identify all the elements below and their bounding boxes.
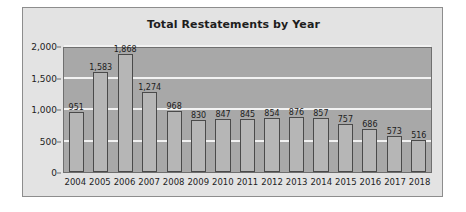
x-axis-tick-label: 2013 (284, 175, 309, 187)
y-axis-tick-label: 2,000 (31, 42, 57, 52)
y-axis-tick-label: 1,000 (31, 105, 57, 115)
bar[interactable]: 830 (191, 120, 206, 172)
bar-slot: 573 (382, 48, 406, 172)
y-axis-tick-mark (57, 78, 61, 79)
x-axis-tick-label: 2005 (88, 175, 113, 187)
y-axis-tick-mark (57, 141, 61, 142)
bar-value-label: 951 (69, 103, 84, 112)
plot-area: 9511,5831,8681,2749688308478458548768577… (63, 47, 432, 173)
bar-slot: 1,868 (113, 48, 137, 172)
bar-value-label: 1,583 (89, 63, 112, 72)
bar-value-label: 876 (289, 108, 304, 117)
x-axis-tick-label: 2016 (358, 175, 383, 187)
bar-value-label: 854 (264, 109, 279, 118)
x-axis-tick-label: 2006 (112, 175, 137, 187)
x-axis-tick-label: 2008 (161, 175, 186, 187)
bar[interactable]: 1,274 (142, 92, 157, 172)
bar-value-label: 1,274 (138, 83, 161, 92)
bar-value-label: 968 (166, 102, 181, 111)
x-axis-tick-label: 2015 (334, 175, 359, 187)
bar-value-label: 847 (215, 110, 230, 119)
x-axis-tick-label: 2007 (137, 175, 162, 187)
bar-series: 9511,5831,8681,2749688308478458548768577… (64, 48, 431, 172)
bar-value-label: 1,868 (114, 45, 137, 54)
bar-value-label: 830 (191, 111, 206, 120)
bar[interactable]: 854 (264, 118, 279, 172)
bar-value-label: 516 (411, 131, 426, 140)
y-axis-tick-mark (57, 47, 61, 48)
bar[interactable]: 1,583 (93, 72, 108, 172)
bar[interactable]: 573 (387, 136, 402, 172)
bar-slot: 876 (284, 48, 308, 172)
bar-slot: 847 (211, 48, 235, 172)
bar-slot: 857 (309, 48, 333, 172)
x-axis-tick-label: 2012 (260, 175, 285, 187)
bar[interactable]: 757 (338, 124, 353, 172)
y-axis-tick-mark (57, 110, 61, 111)
bar[interactable]: 876 (289, 117, 304, 172)
y-axis-tick-label: 500 (40, 137, 57, 147)
chart-frame: Total Restatements by Year 05001,0001,50… (22, 7, 443, 197)
bar[interactable]: 1,868 (118, 54, 133, 172)
chart-title: Total Restatements by Year (23, 18, 444, 31)
y-axis-tick-mark (57, 173, 61, 174)
x-axis-tick-label: 2009 (186, 175, 211, 187)
bar-slot: 854 (260, 48, 284, 172)
bar-slot: 968 (162, 48, 186, 172)
x-axis: 2004200520062007200820092010201120122013… (63, 175, 432, 193)
bar-slot: 1,583 (88, 48, 112, 172)
bar-slot: 686 (358, 48, 382, 172)
bar-value-label: 845 (240, 110, 255, 119)
bar-value-label: 573 (387, 127, 402, 136)
x-axis-tick-label: 2018 (407, 175, 432, 187)
bar-slot: 845 (235, 48, 259, 172)
bar-slot: 1,274 (137, 48, 161, 172)
bar[interactable]: 845 (240, 119, 255, 172)
x-axis-tick-label: 2010 (211, 175, 236, 187)
bar-slot: 951 (64, 48, 88, 172)
bar-value-label: 857 (313, 109, 328, 118)
bar[interactable]: 516 (411, 140, 426, 173)
bar-value-label: 686 (362, 120, 377, 129)
bar[interactable]: 686 (362, 129, 377, 172)
bar-slot: 830 (186, 48, 210, 172)
x-axis-tick-label: 2011 (235, 175, 260, 187)
x-axis-tick-label: 2004 (63, 175, 88, 187)
x-axis-tick-label: 2017 (383, 175, 408, 187)
bar[interactable]: 857 (313, 118, 328, 172)
bar-slot: 516 (407, 48, 431, 172)
bar-slot: 757 (333, 48, 357, 172)
bar[interactable]: 847 (215, 119, 230, 172)
y-axis-tick-label: 1,500 (31, 74, 57, 84)
bar-value-label: 757 (338, 115, 353, 124)
y-axis: 05001,0001,5002,000 (23, 47, 61, 173)
x-axis-tick-label: 2014 (309, 175, 334, 187)
chart-screenshot: Total Restatements by Year 05001,0001,50… (0, 0, 466, 212)
bar[interactable]: 968 (167, 111, 182, 172)
bar[interactable]: 951 (69, 112, 84, 172)
